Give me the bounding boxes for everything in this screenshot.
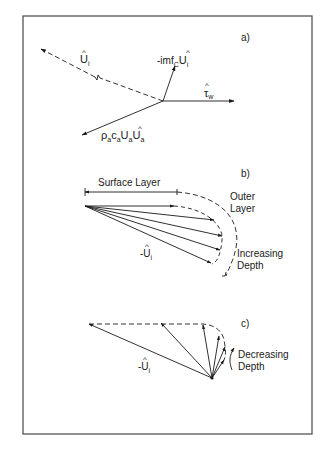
hat-glyph: ^ <box>143 355 147 364</box>
hat-glyph: ^ <box>82 48 86 57</box>
decreasing-depth-arrow <box>230 348 234 370</box>
panel-b-label: b) <box>241 168 250 179</box>
velocity-profile-vectors <box>85 206 222 263</box>
velocity-profile-vectors-c <box>89 323 225 378</box>
decreasing-depth-label: Decreasing Depth <box>238 349 291 372</box>
ice-velocity-vector: Ui ^ <box>41 48 163 101</box>
origin-point <box>210 376 213 379</box>
hat-glyph: ^ <box>138 124 142 133</box>
surface-layer-label: Surface Layer <box>98 177 161 188</box>
coriolis-label: -imfCUi <box>157 54 189 68</box>
hat-glyph: ^ <box>186 48 190 57</box>
panel-b: b) Surface Layer Outer Layer Increasing … <box>85 168 286 276</box>
outer-layer-arc <box>177 192 237 276</box>
hodograph-dashed-curve <box>89 324 226 360</box>
hodograph-arc <box>174 206 222 264</box>
air-drag-vector: ρacaUaUa ^ <box>82 101 163 143</box>
outer-layer-label: Outer Layer <box>230 191 258 214</box>
break-zigzag-icon <box>95 75 100 80</box>
figure-frame <box>23 16 312 434</box>
panel-c: c) Decreasing Depth -Ui ^ <box>89 318 291 380</box>
panel-a: a) Ui ^ -imfCUi ^ τw ^ <box>41 32 250 143</box>
ice-ocean-stress-diagram: a) Ui ^ -imfCUi ^ τw ^ <box>0 0 327 449</box>
increasing-depth-label: Increasing Depth <box>237 248 286 271</box>
panel-a-label: a) <box>241 32 250 43</box>
panel-c-label: c) <box>241 318 249 329</box>
wind-stress-vector: τw ^ <box>163 81 234 101</box>
hat-glyph: ^ <box>205 81 209 90</box>
coriolis-vector: -imfCUi ^ <box>157 48 190 101</box>
increasing-depth-arrow <box>222 272 226 276</box>
surface-layer-bracket: Surface Layer <box>85 177 177 196</box>
hat-glyph: ^ <box>145 242 149 251</box>
